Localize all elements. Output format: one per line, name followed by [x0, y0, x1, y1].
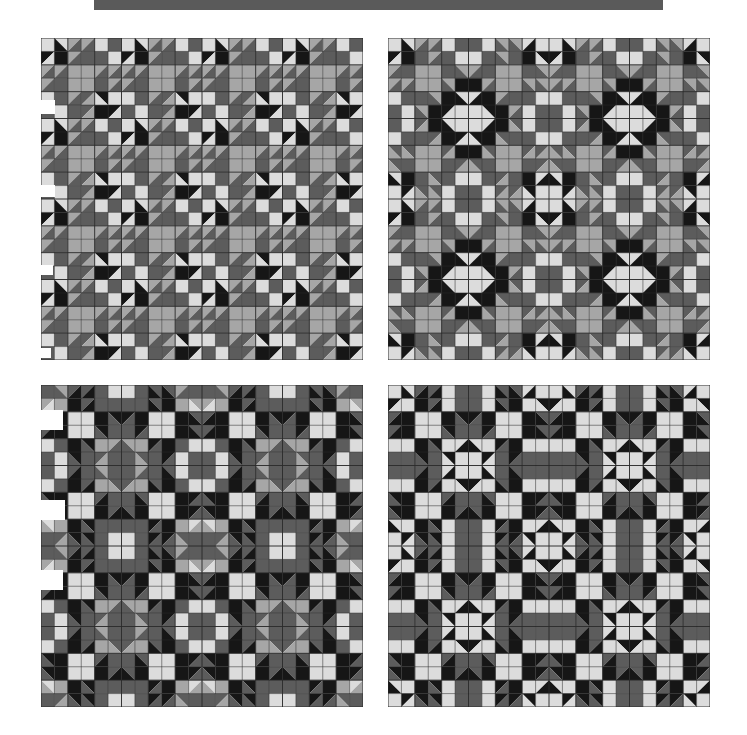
edge-notch [41, 265, 53, 275]
top-header-bar [94, 0, 663, 10]
quilt-quilt-bottom-left [41, 385, 363, 707]
quilt-panel-top-left [41, 38, 363, 360]
edge-notch [41, 570, 63, 590]
edge-notch [41, 348, 51, 358]
quilt-quilt-bottom-right [388, 385, 710, 707]
edge-notch [41, 100, 55, 114]
quilt-quilt-top-right [388, 38, 710, 360]
edge-notch [41, 410, 63, 430]
edge-notch [41, 185, 55, 197]
edge-notch [41, 500, 65, 520]
quilt-panel-top-right [388, 38, 710, 360]
quilt-panel-bottom-right [388, 385, 710, 707]
quilt-quilt-top-left [41, 38, 363, 360]
quilt-panel-bottom-left [41, 385, 363, 707]
